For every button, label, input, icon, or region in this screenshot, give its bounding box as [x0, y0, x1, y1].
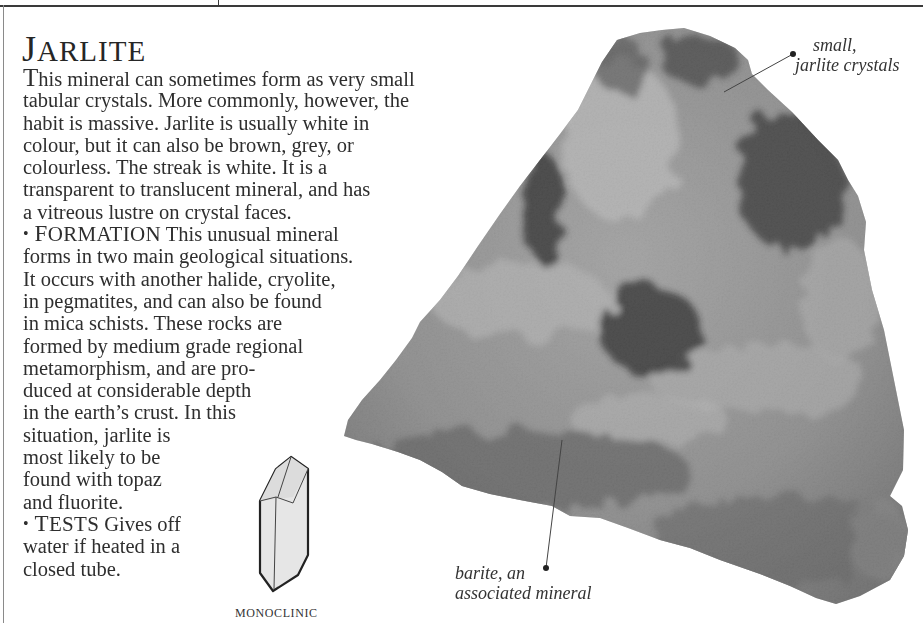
formation-line: in mica schists. These rocks are [23, 312, 473, 334]
formation-heading-initial: F [35, 221, 48, 246]
left-margin-rule [3, 5, 4, 623]
callout-line: small, [805, 35, 900, 55]
callout-line: jarlite crystals [795, 55, 900, 75]
title-initial: J [22, 29, 37, 69]
formation-heading-rest: ORMATION [48, 222, 161, 246]
top-rule-divider-tick [218, 0, 219, 6]
formation-line: situation, jarlite is [23, 424, 473, 446]
tests-heading: TESTS [35, 512, 100, 536]
callout-jarlite-crystals: small, jarlite crystals [805, 35, 900, 75]
tests-heading-rest: ESTS [49, 512, 99, 536]
page-title: JARLITE [22, 28, 146, 70]
dropcap: T [23, 64, 38, 91]
top-rule [0, 0, 923, 7]
tests-line: closed tube. [23, 558, 473, 580]
bullet-icon: • [23, 225, 29, 242]
tests-line: water if heated in a [23, 535, 473, 557]
bullet-icon: • [23, 515, 29, 532]
formation-line: metamorphism, and are pro- [23, 357, 473, 379]
intro-line: a vitreous lustre on crystal faces. [23, 201, 473, 223]
callout-line: associated mineral [455, 583, 592, 603]
formation-heading: FORMATION [35, 222, 161, 246]
intro-line: habit is massive. Jarlite is usually whi… [23, 112, 473, 134]
callout-barite: barite, an associated mineral [455, 563, 592, 603]
tests-text: Gives off [104, 513, 181, 535]
intro-text: his mineral can sometimes form as very s… [38, 68, 414, 90]
intro-line: colour, but it can also be brown, grey, … [23, 134, 473, 156]
intro-line: transparent to translucent mineral, and … [23, 178, 473, 200]
crystal-system-label: MONOCLINIC [235, 606, 318, 621]
formation-text: This unusual mineral [166, 223, 339, 245]
formation-line: formed by medium grade regional [23, 335, 473, 357]
callout-line: barite, an [455, 563, 592, 583]
intro-line: This mineral can sometimes form as very … [23, 67, 473, 89]
formation-line: most likely to be [23, 446, 473, 468]
formation-heading-line: •FORMATION This unusual mineral [23, 223, 473, 245]
formation-line: in the earth’s crust. In this [23, 401, 473, 423]
intro-line: tabular crystals. More commonly, however… [23, 89, 473, 111]
formation-line: It occurs with another halide, cryolite, [23, 268, 473, 290]
monoclinic-crystal-icon [256, 455, 316, 595]
formation-line: duced at considerable depth [23, 379, 473, 401]
description-text: This mineral can sometimes form as very … [23, 67, 473, 580]
tests-heading-line: •TESTS Gives off [23, 513, 473, 535]
intro-line: colourless. The streak is white. It is a [23, 156, 473, 178]
formation-line: found with topaz [23, 468, 473, 490]
formation-line: forms in two main geological situations. [23, 245, 473, 267]
formation-line: and fluorite. [23, 491, 473, 513]
tests-heading-initial: T [35, 511, 49, 536]
formation-line: in pegmatites, and can also be found [23, 290, 473, 312]
title-rest: ARLITE [37, 35, 146, 67]
